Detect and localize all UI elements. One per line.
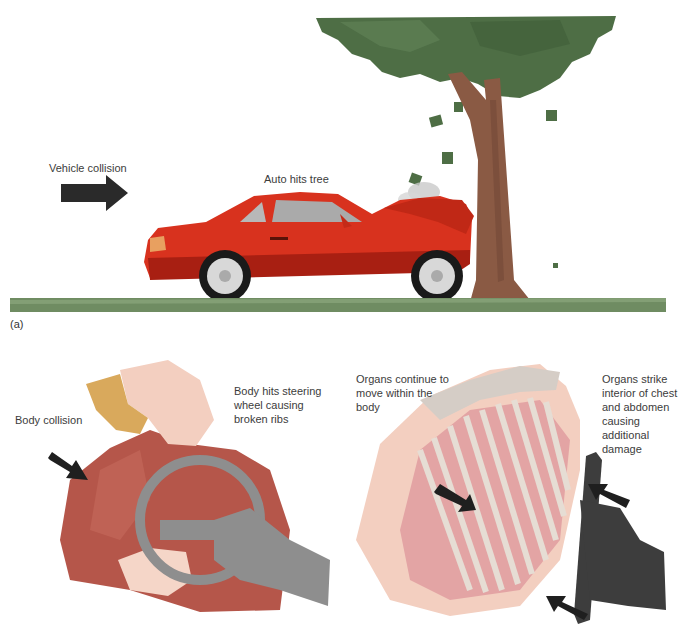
panel-a-tag: (a) [10,318,23,330]
red-car [144,192,474,302]
organs-continue-label: Organs continue to move within the body [356,372,449,414]
body-collision-label: Body collision [15,413,82,427]
auto-hits-tree-label: Auto hits tree [264,172,329,186]
body-hits-wheel-label: Body hits steering wheel causing broken … [234,384,321,426]
vehicle-direction-arrow-icon [61,175,128,211]
organs-strike-label: Organs strike interior of chest and abdo… [602,372,677,456]
body-collision-arrow-icon [48,452,88,480]
vehicle-collision-label: Vehicle collision [49,161,127,175]
collision-illustration [0,0,689,631]
